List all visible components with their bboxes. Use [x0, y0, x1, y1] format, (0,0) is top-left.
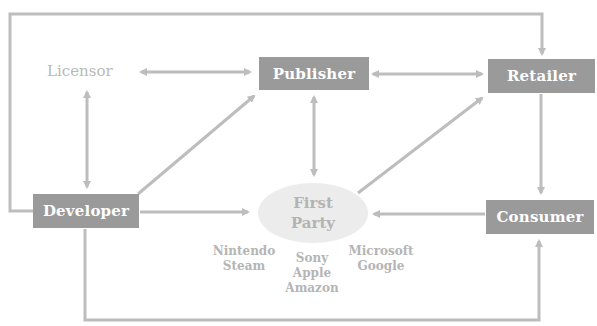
platforms-left: Nintendo Steam [206, 244, 282, 274]
platform-google: Google [342, 259, 420, 274]
node-licensor: Licensor [47, 62, 113, 80]
platform-microsoft: Microsoft [342, 244, 420, 259]
platform-apple: Apple [278, 266, 346, 281]
edge-developer-publisher [138, 96, 254, 194]
first-party-line2: Party [291, 213, 335, 233]
platform-sony: Sony [278, 251, 346, 266]
edge-firstparty-retailer [358, 98, 482, 193]
first-party-line1: First [293, 193, 333, 213]
node-developer: Developer [33, 194, 139, 228]
node-retailer: Retailer [488, 59, 595, 93]
node-consumer: Consumer [486, 200, 594, 234]
platform-steam: Steam [206, 259, 282, 274]
platforms-right: Microsoft Google [342, 244, 420, 274]
node-publisher: Publisher [259, 57, 369, 90]
platform-amazon: Amazon [278, 281, 346, 296]
node-first-party: First Party [258, 183, 368, 243]
platform-nintendo: Nintendo [206, 244, 282, 259]
platforms-center: Sony Apple Amazon [278, 251, 346, 296]
